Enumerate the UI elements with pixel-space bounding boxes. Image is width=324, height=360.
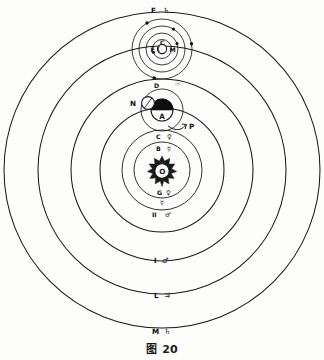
jupiter-left-label: E bbox=[151, 46, 155, 53]
label-venus-lower: G bbox=[157, 189, 162, 196]
moon-label: N bbox=[130, 99, 136, 108]
glyph-saturn: ♄ bbox=[164, 327, 171, 336]
jupiter-satellite-6 bbox=[153, 76, 156, 79]
deferent-label-group: D ☉ bbox=[154, 80, 181, 89]
astronomy-figure: O A N P D ☉ bbox=[0, 0, 324, 360]
jupiter-center-label: C bbox=[160, 39, 165, 46]
label-saturn: M bbox=[152, 327, 159, 336]
jupiter-satellite-4 bbox=[190, 42, 193, 45]
label-jupiter: L bbox=[154, 291, 159, 300]
label-venus: C bbox=[156, 133, 161, 140]
glyph-mars-lower: ♂ bbox=[165, 211, 171, 219]
jupiter-satellite-3 bbox=[172, 28, 175, 31]
label-saturn-top: F bbox=[151, 6, 156, 15]
label-mercury: B bbox=[156, 145, 161, 152]
glyph-jupiter: ♃ bbox=[164, 291, 171, 300]
deferent-label: D bbox=[154, 82, 159, 89]
glyph-mercury: ☿ bbox=[167, 145, 171, 153]
figure-caption: 图20 bbox=[0, 340, 324, 356]
pointer-label: P bbox=[189, 122, 194, 131]
jupiter-satellite-5 bbox=[145, 21, 148, 24]
jupiter-satellite-2 bbox=[176, 42, 179, 45]
label-mars-lower: II bbox=[152, 211, 157, 218]
glyph-venus: ♀ bbox=[167, 133, 172, 141]
earth-moon-system: A N bbox=[130, 89, 183, 131]
caption-prefix: 图 bbox=[146, 343, 162, 356]
caption-number: 20 bbox=[162, 343, 177, 356]
jupiter-satellite-system: E M C bbox=[132, 19, 193, 80]
label-mars: I bbox=[154, 256, 157, 265]
glyph-venus-lower: ♀ bbox=[166, 189, 171, 197]
deferent-pointer: P bbox=[168, 122, 194, 131]
jupiter-right-label: M bbox=[170, 46, 176, 53]
sun-label: O bbox=[159, 167, 165, 176]
glyph-mars: ♂ bbox=[162, 256, 169, 265]
earth-label: A bbox=[159, 112, 165, 121]
deferent-glyph: ☉ bbox=[175, 80, 181, 88]
tychonic-system-diagram: O A N P D ☉ bbox=[0, 0, 324, 336]
glyph-saturn-top: ♄ bbox=[163, 6, 170, 15]
glyph-mercury-lower: ☿ bbox=[160, 199, 164, 207]
